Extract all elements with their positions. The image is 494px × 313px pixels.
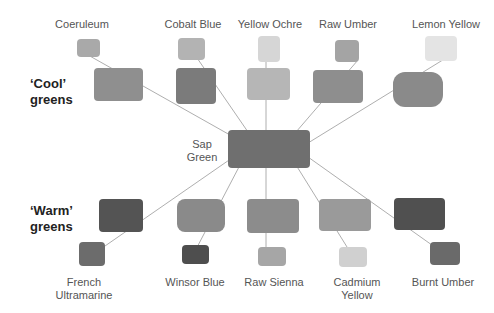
label-sap-green-line1: Sap [187, 138, 218, 151]
label-coeruleum: Coeruleum [55, 18, 109, 31]
label-cadmium-yellow-line1: Cadmium [333, 276, 380, 289]
label-raw-umber: Raw Umber [319, 18, 377, 31]
label-raw-sienna: Raw Sienna [244, 276, 303, 289]
pigment-swatch-french-ultramarine [79, 242, 105, 266]
label-french-ultramarine: French Ultramarine [56, 276, 113, 302]
mix-swatch-cobalt-blue [176, 68, 216, 104]
mix-swatch-coeruleum [94, 68, 143, 101]
pigment-swatch-burnt-umber [430, 242, 460, 265]
label-yellow-ochre: Yellow Ochre [238, 18, 302, 31]
pigment-swatch-winsor-blue [182, 245, 209, 264]
label-french-ultramarine-line1: French [56, 276, 113, 289]
label-sap-green-line2: Green [187, 151, 218, 164]
mix-swatch-raw-umber [313, 70, 363, 103]
pigment-swatch-cobalt-blue [178, 38, 205, 60]
pigment-swatch-lemon-yellow [425, 36, 457, 61]
mix-swatch-burnt-umber [394, 198, 445, 230]
group-label-cool-line2: greens [30, 92, 73, 108]
mix-swatch-winsor-blue [177, 199, 225, 232]
label-french-ultramarine-line2: Ultramarine [56, 289, 113, 302]
group-label-warm-line2: greens [30, 219, 73, 235]
label-burnt-umber: Burnt Umber [412, 276, 474, 289]
mix-swatch-lemon-yellow [393, 72, 443, 107]
group-label-cool-line1: ‘Cool’ [30, 76, 73, 92]
label-lemon-yellow: Lemon Yellow [412, 18, 480, 31]
mix-swatch-cadmium-yellow [319, 199, 371, 231]
group-label-cool: ‘Cool’ greens [30, 76, 73, 108]
label-winsor-blue: Winsor Blue [165, 276, 224, 289]
pigment-swatch-yellow-ochre [258, 36, 280, 62]
mix-swatch-yellow-ochre [247, 68, 290, 100]
label-sap-green: Sap Green [187, 138, 218, 164]
group-label-warm-line1: ‘Warm’ [30, 203, 73, 219]
center-swatch-sap-green [228, 130, 310, 168]
mix-swatch-raw-sienna [247, 199, 299, 233]
pigment-swatch-cadmium-yellow [339, 247, 367, 267]
group-label-warm: ‘Warm’ greens [30, 203, 73, 235]
pigment-swatch-coeruleum [77, 39, 100, 57]
pigment-swatch-raw-sienna [258, 247, 286, 266]
pigment-swatch-raw-umber [335, 40, 359, 62]
label-cadmium-yellow-line2: Yellow [333, 289, 380, 302]
label-cadmium-yellow: Cadmium Yellow [333, 276, 380, 302]
mix-swatch-french-ultramarine [99, 199, 143, 232]
label-cobalt-blue: Cobalt Blue [165, 18, 222, 31]
